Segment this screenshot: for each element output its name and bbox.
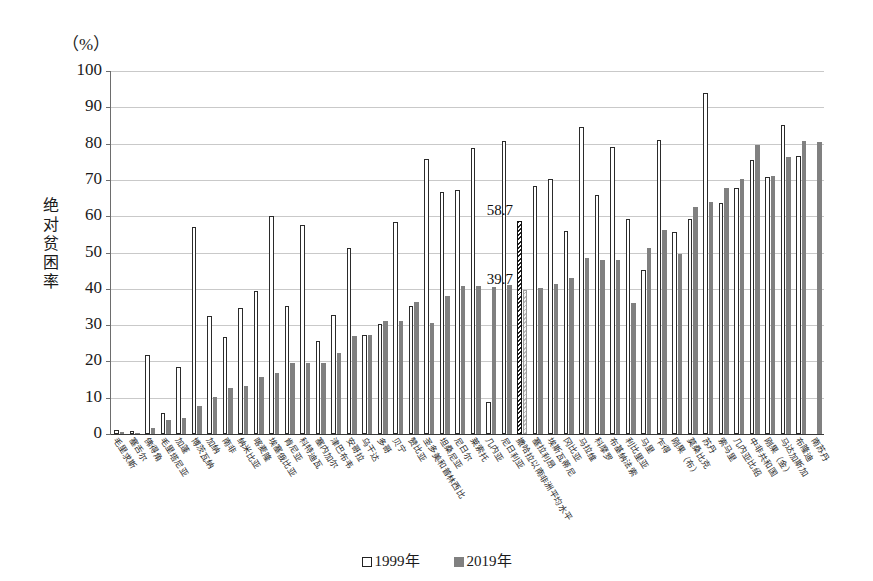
data-label: 58.7 bbox=[487, 202, 513, 219]
bar-2019 bbox=[399, 321, 404, 434]
y-axis-tick-label: 0 bbox=[64, 423, 102, 443]
bar-1999 bbox=[285, 306, 290, 434]
bar-1999 bbox=[610, 147, 615, 434]
bar-group bbox=[111, 71, 127, 434]
bar-2019 bbox=[771, 176, 776, 434]
bar-group bbox=[545, 71, 561, 434]
bar-group bbox=[452, 71, 468, 434]
bar-2019 bbox=[352, 336, 357, 434]
y-axis-tick bbox=[106, 434, 111, 435]
y-axis-title-char: 率 bbox=[40, 272, 62, 291]
bar-group bbox=[623, 71, 639, 434]
bar-1999 bbox=[626, 219, 631, 434]
bar-1999 bbox=[781, 125, 786, 434]
bar-1999 bbox=[595, 195, 600, 434]
bar-group bbox=[266, 71, 282, 434]
bar-1999 bbox=[688, 219, 693, 434]
bar-2019 bbox=[383, 321, 388, 434]
bar-2019 bbox=[275, 373, 280, 434]
bar-group bbox=[514, 71, 530, 434]
bar-1999 bbox=[378, 324, 383, 434]
bar-group bbox=[638, 71, 654, 434]
bar-group bbox=[685, 71, 701, 434]
bar-1999 bbox=[362, 335, 367, 434]
y-axis-tick-label: 80 bbox=[64, 133, 102, 153]
bar-2019 bbox=[647, 248, 652, 434]
bar-group bbox=[607, 71, 623, 434]
bar-2019 bbox=[709, 202, 714, 434]
y-axis-tick-label: 10 bbox=[64, 387, 102, 407]
bar-group bbox=[220, 71, 236, 434]
legend-item: 2019年 bbox=[454, 549, 512, 570]
y-axis-title-char: 贫 bbox=[40, 234, 62, 253]
bar-2019 bbox=[461, 286, 466, 434]
bar-group bbox=[421, 71, 437, 434]
bar-2019 bbox=[166, 420, 171, 434]
y-axis-tick-label: 90 bbox=[64, 96, 102, 116]
bar-2019 bbox=[724, 188, 729, 434]
bar-2019 bbox=[368, 335, 373, 434]
bar-2019 bbox=[585, 258, 590, 434]
bar-2019 bbox=[213, 397, 218, 434]
bar-group bbox=[592, 71, 608, 434]
plot-area bbox=[110, 71, 824, 435]
bar-group bbox=[282, 71, 298, 434]
bar-1999 bbox=[300, 225, 305, 434]
bar-1999 bbox=[719, 203, 724, 434]
bar-group bbox=[359, 71, 375, 434]
bar-2019 bbox=[802, 141, 807, 434]
bar-1999 bbox=[672, 232, 677, 434]
bar-2019 bbox=[228, 388, 233, 434]
bar-group bbox=[127, 71, 143, 434]
bar-2019 bbox=[554, 284, 559, 434]
bar-group bbox=[375, 71, 391, 434]
bar-group bbox=[576, 71, 592, 434]
poverty-rate-bar-chart: （%） 绝对贫困率 毛里求斯塞舌尔佛得角毛里塔尼亚加蓬博茨瓦纳加纳南非纳米比亚喀… bbox=[0, 0, 873, 581]
bar-group bbox=[762, 71, 778, 434]
bar-group bbox=[173, 71, 189, 434]
bar-group bbox=[561, 71, 577, 434]
unit-label: （%） bbox=[62, 30, 110, 55]
y-axis-tick-label: 30 bbox=[64, 314, 102, 334]
bar-group bbox=[204, 71, 220, 434]
bar-2019 bbox=[492, 287, 497, 434]
bar-1999 bbox=[223, 337, 228, 434]
bar-1999 bbox=[145, 355, 150, 434]
bar-1999 bbox=[750, 160, 755, 434]
bar-2019 bbox=[740, 179, 745, 434]
bar-1999 bbox=[440, 192, 445, 434]
bar-group bbox=[778, 71, 794, 434]
bar-1999 bbox=[734, 188, 739, 434]
bar-2019 bbox=[616, 260, 621, 434]
bar-2019 bbox=[414, 302, 419, 434]
legend-label: 1999年 bbox=[375, 553, 420, 569]
bar-2019 bbox=[523, 290, 528, 434]
bar-1999 bbox=[579, 127, 584, 434]
bar-1999 bbox=[331, 315, 336, 434]
bar-2019 bbox=[662, 230, 667, 434]
bar-1999 bbox=[424, 159, 429, 434]
bar-1999 bbox=[207, 316, 212, 434]
bar-1999 bbox=[765, 177, 770, 434]
bar-2019 bbox=[476, 286, 481, 434]
bar-2019 bbox=[321, 363, 326, 435]
chart-legend: 1999年2019年 bbox=[0, 549, 873, 570]
bar-1999 bbox=[114, 430, 119, 434]
y-axis-title: 绝对贫困率 bbox=[40, 196, 62, 291]
y-axis-title-char: 绝 bbox=[40, 196, 62, 215]
bar-1999 bbox=[548, 179, 553, 434]
bar-1999 bbox=[316, 341, 321, 434]
bar-group bbox=[344, 71, 360, 434]
bar-2019 bbox=[244, 386, 249, 434]
bar-group bbox=[809, 71, 825, 434]
bar-1999 bbox=[703, 93, 708, 434]
bar-group bbox=[313, 71, 329, 434]
bar-group bbox=[530, 71, 546, 434]
legend-item: 1999年 bbox=[362, 549, 420, 570]
bar-2019 bbox=[786, 157, 791, 434]
y-axis-tick-label: 50 bbox=[64, 242, 102, 262]
bar-1999 bbox=[409, 306, 414, 434]
bar-group bbox=[793, 71, 809, 434]
legend-label: 2019年 bbox=[467, 553, 512, 569]
bar-2019 bbox=[197, 406, 202, 434]
